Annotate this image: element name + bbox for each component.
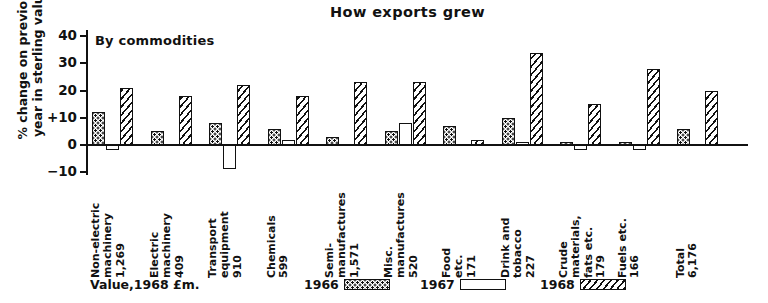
x-category-label-9: Fuels etc. 166 xyxy=(617,182,642,278)
bar-1968-misc-manufactures xyxy=(413,82,426,145)
bar-1968-semi-manufactures xyxy=(354,82,367,145)
bar-1966-chemicals xyxy=(268,129,281,145)
y-tick-label-4: 0 xyxy=(68,136,77,152)
y-tick-0 xyxy=(80,35,88,37)
chart-legend: Value,1968 £m. 196619671968 xyxy=(90,277,750,299)
bar-1967-fuels-etc xyxy=(633,145,646,150)
bar-1966-crude-materials-fats-etc xyxy=(560,142,573,145)
bar-1966-total xyxy=(677,129,690,145)
y-tick-label-0: 40 xyxy=(58,27,77,43)
bar-1967-drink-and-tobacco xyxy=(516,142,529,145)
y-tick-1 xyxy=(80,62,88,64)
legend-label-1968: 1968 xyxy=(540,277,575,292)
y-tick-label-1: 30 xyxy=(58,54,77,70)
legend-item-1968[interactable]: 1968 xyxy=(540,277,626,292)
x-category-label-2: Transport equipment 910 xyxy=(207,182,244,278)
bar-1967-transport-equipment xyxy=(223,145,236,169)
bar-1967-non-electric-machinery xyxy=(106,145,119,150)
bar-1967-misc-manufactures xyxy=(399,123,412,145)
bar-1966-electric-machinery xyxy=(151,131,164,145)
x-category-label-0: Non-electric machinery 1,269 xyxy=(90,182,127,278)
y-tick-2 xyxy=(80,90,88,92)
bar-1966-fuels-etc xyxy=(619,142,632,145)
legend-swatch-1966 xyxy=(344,279,390,290)
bar-1966-transport-equipment xyxy=(209,123,222,145)
legend-swatch-1968 xyxy=(580,279,626,290)
bar-1968-electric-machinery xyxy=(179,96,192,145)
bar-1968-fuels-etc xyxy=(647,69,660,145)
x-category-label-8: Crude materials, fats etc. 179 xyxy=(558,182,608,278)
y-tick-label-5: −10 xyxy=(47,163,77,179)
chart-title: How exports grew xyxy=(330,4,485,20)
bar-1968-drink-and-tobacco xyxy=(530,53,543,145)
x-category-label-4: Semi- manufactures 1,571 xyxy=(324,182,361,278)
bar-1966-drink-and-tobacco xyxy=(502,118,515,145)
chart-figure: How exports grew By commodities % change… xyxy=(0,0,768,303)
y-axis-label: % change on previous year in sterling va… xyxy=(15,0,45,152)
bar-1967-chemicals xyxy=(282,140,295,145)
y-tick-5 xyxy=(80,171,88,173)
bar-1968-total xyxy=(705,91,718,145)
y-tick-label-2: 20 xyxy=(58,82,77,98)
legend-value-note: Value,1968 £m. xyxy=(90,277,199,292)
bar-1966-semi-manufactures xyxy=(326,137,339,145)
legend-item-1966[interactable]: 1966 xyxy=(304,277,390,292)
legend-label-1967: 1967 xyxy=(420,277,455,292)
bar-1968-chemicals xyxy=(296,96,309,145)
bar-1968-crude-materials-fats-etc xyxy=(588,104,601,145)
legend-label-1966: 1966 xyxy=(304,277,339,292)
x-category-label-6: Food etc. 171 xyxy=(441,182,478,278)
y-tick-label-3: +10 xyxy=(47,109,77,125)
bar-1966-food-etc xyxy=(443,126,456,145)
legend-swatch-1967 xyxy=(460,279,506,290)
y-tick-3 xyxy=(80,117,88,119)
bar-1966-non-electric-machinery xyxy=(92,112,105,145)
x-category-label-1: Electric machinery 409 xyxy=(149,182,186,278)
bar-1968-food-etc xyxy=(471,140,484,145)
bar-1967-crude-materials-fats-etc xyxy=(574,145,587,150)
bar-1968-non-electric-machinery xyxy=(120,88,133,145)
y-tick-4 xyxy=(80,144,88,146)
x-category-label-3: Chemicals 599 xyxy=(266,182,291,278)
x-category-label-10: Total 6,176 xyxy=(675,182,700,278)
bar-1968-transport-equipment xyxy=(237,85,250,145)
x-category-label-5: Misc. manufactures 520 xyxy=(383,182,420,278)
bar-1966-misc-manufactures xyxy=(385,131,398,145)
legend-item-1967[interactable]: 1967 xyxy=(420,277,506,292)
x-category-label-7: Drink and tobacco 227 xyxy=(500,182,537,278)
